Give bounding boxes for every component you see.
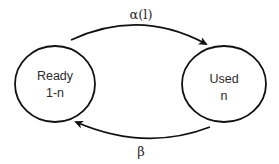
arrow-right-icon	[71, 25, 206, 44]
node-ready: Ready 1-n	[15, 46, 95, 122]
edge-ready-to-used-label: α(l)	[129, 7, 152, 22]
node-used-label-line2: n	[221, 89, 228, 103]
node-ready-label-line2: 1-n	[46, 86, 64, 100]
state-diagram: Ready 1-n Used n α(l) β	[0, 0, 279, 164]
edge-used-to-ready: β	[76, 122, 210, 159]
arrow-left-icon	[76, 122, 210, 138]
edge-ready-to-used: α(l)	[71, 7, 206, 44]
node-ready-circle	[15, 46, 95, 122]
edge-used-to-ready-label: β	[137, 144, 145, 159]
node-used: Used n	[182, 46, 266, 122]
node-ready-label-line1: Ready	[37, 69, 74, 83]
node-used-label-line1: Used	[209, 72, 238, 86]
